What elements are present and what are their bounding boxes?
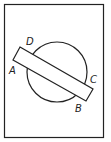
diagram-canvas: D A C B	[0, 0, 111, 142]
label-b: B	[75, 103, 82, 114]
label-c: C	[90, 74, 97, 85]
label-a: A	[8, 65, 16, 76]
label-d: D	[26, 36, 34, 47]
